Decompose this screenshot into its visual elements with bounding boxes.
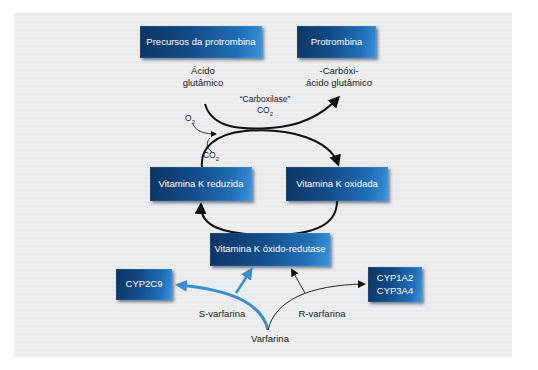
o2-label: O2 [182,113,198,126]
s-warfarin-label: S-varfarina [190,308,254,320]
carboxy-glutamic-acid-label: -Carbóxi- ácido glutâmico [298,65,380,90]
cyp1a2-cyp3a4-box: CYP1A2 CYP3A4 [368,267,422,302]
warfarin-label: Varfarina [240,333,300,345]
co2-top-label: CO2 [255,105,275,118]
cyp2c9-box: CYP2C9 [116,269,172,300]
r-warfarin-label: R-varfarina [290,308,354,320]
s-warfarin-to-redutase-arrow [236,270,251,293]
reduced-to-oxidized-arrow [202,130,338,167]
glutamic-acid-label: Ácido glutâmico [168,65,238,90]
pathway-arrows [0,0,538,370]
r-warfarin-to-cyp-arrow [268,284,364,330]
r-warfarin-to-redutase-arrow [292,270,305,293]
precursors-prothrombin-box: Precursos da protrombina [140,26,262,58]
vitamin-k-epoxide-reductase-box: Vitamina K óxido-redutase [210,233,330,266]
oxidized-to-reduced-arrow [201,201,337,235]
carboxylase-label: “Carboxilase” [230,94,300,105]
vitamin-k-oxidized-box: Vitamina K oxidada [286,167,388,201]
prothrombin-box: Protrombina [297,26,376,58]
vitamin-k-reduced-box: Vitamina K reduzida [150,167,252,201]
co2-mid-label: CO2 [200,150,222,163]
